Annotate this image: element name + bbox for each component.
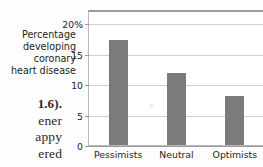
scan-artifact	[149, 104, 154, 108]
y-tick-label-5: 5	[77, 110, 83, 121]
page-text-line-1: ener	[0, 113, 62, 130]
y-axis-title-line-0: Percentage	[0, 29, 76, 41]
y-axis-title: Percentagedevelopingcoronaryheart diseas…	[0, 29, 76, 77]
page-body-text: 1.6).enerappyered	[0, 96, 62, 162]
y-tick-label-20: 20%	[62, 19, 83, 30]
bar-pessimists	[109, 40, 128, 145]
chart-plot-area: 05101520% PessimistsNeutralOptimists	[88, 10, 263, 146]
y-tick-label-10: 10	[71, 80, 83, 91]
y-tick-label-15: 15	[71, 49, 83, 60]
tick-mark-20	[85, 24, 89, 25]
tick-mark-10	[85, 85, 89, 86]
tick-mark-5	[85, 116, 89, 117]
gridline-20	[89, 24, 263, 25]
y-axis-title-line-1: developing	[0, 41, 76, 53]
y-axis-title-line-2: coronary	[0, 53, 76, 65]
y-tick-label-0: 0	[77, 141, 83, 152]
bar-optimists	[225, 96, 244, 145]
x-tick-label-neutral: Neutral	[159, 149, 193, 160]
x-tick-label-pessimists: Pessimists	[94, 149, 142, 160]
x-tick-label-optimists: Optimists	[213, 149, 257, 160]
page-text-line-2: appy	[0, 129, 62, 146]
page-text-line-0: 1.6).	[0, 96, 62, 113]
page-text-line-3: ered	[0, 146, 62, 163]
tick-mark-0	[85, 146, 89, 147]
y-axis-title-line-3: heart disease	[0, 65, 76, 77]
gridline-0	[89, 146, 263, 147]
tick-mark-15	[85, 55, 89, 56]
bar-neutral	[167, 73, 186, 145]
